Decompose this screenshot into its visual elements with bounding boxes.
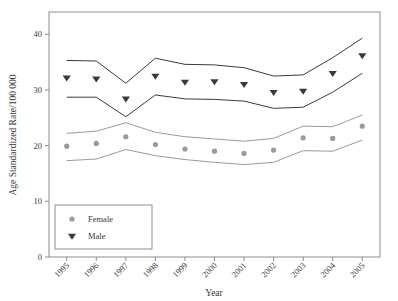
marker-triangle-down (210, 79, 218, 85)
marker-triangle-down (329, 71, 337, 77)
y-tick-label: 0 (38, 252, 42, 262)
marker-circle (360, 124, 365, 129)
marker-triangle-down (122, 97, 130, 103)
marker-triangle-down (92, 77, 100, 83)
marker-circle (271, 147, 276, 152)
x-tick-label: 1995 (52, 260, 71, 279)
marker-circle (301, 135, 306, 140)
y-tick-label: 30 (34, 85, 43, 95)
x-tick-label: 2000 (200, 260, 219, 279)
marker-circle (241, 151, 246, 156)
ci-line (67, 115, 363, 141)
marker-circle (123, 134, 128, 139)
chart-legend: FemaleMale (55, 205, 152, 249)
x-axis-ticks (67, 257, 363, 261)
confidence-interval-lines (67, 38, 363, 164)
x-axis-title: Year (205, 288, 223, 298)
x-tick-label: 1996 (82, 260, 101, 279)
ci-line (67, 38, 363, 83)
marker-circle (94, 141, 99, 146)
chart-container: 010203040 199519961997199819992000200120… (0, 0, 398, 301)
marker-circle (69, 216, 74, 221)
y-axis-tick-labels: 010203040 (34, 29, 43, 262)
y-tick-label: 20 (34, 141, 43, 151)
marker-triangle-down (151, 74, 159, 80)
marker-triangle-down (358, 53, 366, 59)
marker-circle (182, 146, 187, 151)
marker-triangle-down (63, 75, 71, 81)
x-tick-label: 1998 (141, 260, 160, 279)
line-chart: 010203040 199519961997199819992000200120… (0, 0, 398, 301)
legend-label-female: Female (88, 214, 113, 224)
marker-circle (64, 144, 69, 149)
x-tick-label: 1999 (170, 260, 189, 279)
x-tick-label: 2005 (348, 260, 367, 279)
marker-triangle-down (270, 90, 278, 96)
x-tick-label: 2001 (229, 260, 248, 279)
marker-triangle-down (240, 82, 248, 88)
y-axis-title: Age Standardized Rate/100 000 (8, 74, 18, 195)
y-tick-label: 40 (34, 29, 43, 39)
legend-label-male: Male (88, 231, 106, 241)
x-tick-label: 2002 (259, 260, 278, 279)
x-tick-label: 1997 (111, 260, 130, 279)
x-axis-tick-labels: 1995199619971998199920002001200220032004… (52, 260, 367, 280)
marker-circle (330, 136, 335, 141)
marker-circle (153, 142, 158, 147)
x-tick-label: 2003 (288, 260, 307, 279)
marker-triangle-down (181, 80, 189, 86)
y-tick-label: 10 (34, 196, 43, 206)
marker-circle (212, 149, 217, 154)
marker-triangle-down (299, 89, 307, 95)
x-tick-label: 2004 (318, 260, 338, 280)
y-axis-ticks (45, 34, 49, 257)
